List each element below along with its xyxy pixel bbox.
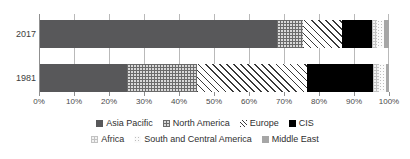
legend-row-1: Asia PacificNorth AmericaEuropeCIS	[0, 115, 410, 131]
legend-label: CIS	[299, 118, 314, 128]
legend-swatch-icon	[240, 120, 247, 127]
plot-area	[39, 14, 389, 92]
legend-row-2: AfricaSouth and Central AmericaMiddle Ea…	[0, 131, 410, 147]
x-tick-mark	[354, 92, 355, 96]
x-tick-mark	[284, 92, 285, 96]
legend-item-north-america[interactable]: North America	[163, 118, 230, 128]
bar-2017[interactable]	[39, 20, 389, 48]
x-tick-label: 90%	[346, 97, 362, 107]
x-tick-label: 100%	[379, 97, 399, 107]
legend-swatch-icon	[289, 120, 296, 127]
x-tick-mark	[389, 92, 390, 96]
x-tick-label: 70%	[276, 97, 292, 107]
x-tick-mark	[179, 92, 180, 96]
x-tick-mark	[214, 92, 215, 96]
y-axis-line	[39, 14, 40, 92]
x-tick-label: 10%	[66, 97, 82, 107]
legend-item-south-and-central-america[interactable]: South and Central America	[134, 134, 252, 144]
legend-swatch-icon	[262, 136, 269, 143]
x-tick-label: 40%	[171, 97, 187, 107]
x-tick-mark	[39, 92, 40, 96]
x-tick-mark	[74, 92, 75, 96]
bar-segment-middle-east-1981[interactable]	[386, 64, 390, 92]
legend-item-asia-pacific[interactable]: Asia Pacific	[96, 118, 153, 128]
x-tick-mark	[109, 92, 110, 96]
x-tick-mark	[144, 92, 145, 96]
bar-1981[interactable]	[39, 64, 389, 92]
x-tick-label: 30%	[136, 97, 152, 107]
legend-item-cis[interactable]: CIS	[289, 118, 314, 128]
x-tick-label: 50%	[206, 97, 222, 107]
legend-item-europe[interactable]: Europe	[240, 118, 279, 128]
x-tick-mark	[319, 92, 320, 96]
bar-segment-asia-pacific-1981[interactable]	[39, 64, 127, 92]
x-tick-label: 60%	[241, 97, 257, 107]
legend-swatch-icon	[91, 136, 98, 143]
bar-segment-south-and-central-america-2017[interactable]	[377, 20, 384, 48]
y-tick-label-1981: 1981	[6, 73, 36, 83]
bar-segment-europe-1981[interactable]	[197, 64, 307, 92]
x-tick-label: 0%	[33, 97, 45, 107]
bar-segment-cis-1981[interactable]	[307, 64, 374, 92]
x-axis: 0%10%20%30%40%50%60%70%80%90%100%	[0, 92, 410, 112]
legend-label: Europe	[250, 118, 279, 128]
legend: Asia PacificNorth AmericaEuropeCIS Afric…	[0, 115, 410, 147]
bar-segment-cis-2017[interactable]	[342, 20, 372, 48]
x-tick-label: 20%	[101, 97, 117, 107]
bar-segment-south-and-central-america-1981[interactable]	[379, 64, 386, 92]
legend-label: North America	[173, 118, 230, 128]
x-tick-label: 80%	[311, 97, 327, 107]
legend-label: Africa	[101, 134, 124, 144]
legend-label: South and Central America	[144, 134, 252, 144]
bar-segment-north-america-2017[interactable]	[277, 20, 303, 48]
legend-label: Asia Pacific	[106, 118, 153, 128]
bar-segment-middle-east-2017[interactable]	[384, 20, 389, 48]
legend-item-africa[interactable]: Africa	[91, 134, 124, 144]
bar-segment-asia-pacific-2017[interactable]	[39, 20, 277, 48]
x-tick-mark	[249, 92, 250, 96]
legend-swatch-icon	[163, 120, 170, 127]
legend-swatch-icon	[134, 136, 141, 143]
y-tick-label-2017: 2017	[6, 29, 36, 39]
legend-item-middle-east[interactable]: Middle East	[262, 134, 319, 144]
legend-swatch-icon	[96, 120, 103, 127]
legend-label: Middle East	[272, 134, 319, 144]
bar-segment-north-america-1981[interactable]	[127, 64, 197, 92]
stacked-bar-chart: 2017 1981 0%10%20%30%40%50%60%70%80%90%1…	[0, 0, 410, 159]
bar-segment-europe-2017[interactable]	[303, 20, 342, 48]
